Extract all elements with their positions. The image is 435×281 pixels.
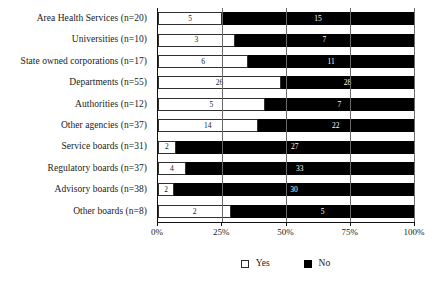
category-label: Other agencies (n=37)	[0, 115, 152, 136]
category-axis-labels: Area Health Services (n=20) Universities…	[0, 8, 152, 222]
bar-segment-no: 7	[235, 34, 414, 47]
x-axis-tick	[157, 222, 158, 226]
stacked-bar-chart: Area Health Services (n=20) Universities…	[0, 0, 435, 281]
stacked-bar: 25	[158, 205, 414, 218]
stacked-bar: 1422	[158, 119, 414, 132]
x-axis-tick-label: 0%	[151, 228, 163, 237]
bar-segment-yes: 2	[158, 205, 231, 218]
category-label: Regulatory boards (n=37)	[0, 158, 152, 179]
bar-segment-no: 28	[281, 76, 414, 89]
category-label: Authorities (n=12)	[0, 94, 152, 115]
bar-segment-yes: 5	[158, 98, 265, 111]
category-label: Other boards (n=8)	[0, 201, 152, 222]
bar-row: 1422	[158, 115, 414, 136]
bar-segment-yes: 14	[158, 119, 258, 132]
bar-segment-no: 15	[222, 12, 414, 25]
bar-segment-no: 30	[174, 183, 414, 196]
category-label: Universities (n=10)	[0, 29, 152, 50]
legend: Yes No	[157, 256, 414, 272]
bar-segment-yes: 5	[158, 12, 222, 25]
stacked-bar: 57	[158, 98, 414, 111]
bar-segment-yes: 4	[158, 162, 186, 175]
stacked-bar: 227	[158, 141, 414, 154]
bar-row: 37	[158, 29, 414, 50]
bar-segment-yes: 26	[158, 76, 281, 89]
bar-segment-yes: 2	[158, 183, 174, 196]
stacked-bar: 2628	[158, 76, 414, 89]
category-label: State owned corporations (n=17)	[0, 51, 152, 72]
x-axis-tick-label: 75%	[342, 228, 359, 237]
category-label: Departments (n=55)	[0, 72, 152, 93]
x-axis-tick	[286, 222, 287, 226]
bar-row: 433	[158, 158, 414, 179]
bar-segment-no: 5	[231, 205, 414, 218]
stacked-bar: 611	[158, 55, 414, 68]
x-axis-tick	[221, 222, 222, 226]
x-axis-tick	[350, 222, 351, 226]
bar-row: 515	[158, 8, 414, 29]
category-label: Advisory boards (n=38)	[0, 179, 152, 200]
bar-segment-no: 11	[248, 55, 414, 68]
x-axis-tick-labels: 0%25%50%75%100%	[157, 228, 414, 242]
bar-segment-yes: 3	[158, 34, 235, 47]
gridline	[414, 8, 415, 222]
x-axis-tick-label: 100%	[404, 228, 425, 237]
stacked-bar: 37	[158, 34, 414, 47]
x-axis-tick	[414, 222, 415, 226]
bar-segment-no: 22	[258, 119, 414, 132]
x-axis-tick-label: 25%	[213, 228, 230, 237]
category-label: Area Health Services (n=20)	[0, 8, 152, 29]
bar-row: 227	[158, 136, 414, 157]
legend-item-yes: Yes	[241, 259, 270, 269]
bar-rows: 51537611262857142222743323025	[158, 8, 414, 222]
plot-area: 51537611262857142222743323025	[157, 8, 414, 222]
stacked-bar: 433	[158, 162, 414, 175]
legend-swatch-yes-icon	[241, 260, 249, 268]
category-label: Service boards (n=31)	[0, 136, 152, 157]
x-axis-tick-label: 50%	[277, 228, 294, 237]
bar-segment-yes: 6	[158, 55, 248, 68]
bar-segment-yes: 2	[158, 141, 176, 154]
legend-swatch-no-icon	[304, 260, 312, 268]
bar-row: 25	[158, 201, 414, 222]
bar-row: 2628	[158, 72, 414, 93]
legend-item-no: No	[304, 259, 331, 269]
bar-row: 57	[158, 94, 414, 115]
bar-segment-no: 7	[265, 98, 414, 111]
bar-row: 611	[158, 51, 414, 72]
stacked-bar: 515	[158, 12, 414, 25]
bar-segment-no: 27	[176, 141, 414, 154]
stacked-bar: 230	[158, 183, 414, 196]
legend-label-yes: Yes	[256, 259, 270, 269]
bar-segment-no: 33	[186, 162, 414, 175]
legend-label-no: No	[319, 259, 331, 269]
bar-row: 230	[158, 179, 414, 200]
